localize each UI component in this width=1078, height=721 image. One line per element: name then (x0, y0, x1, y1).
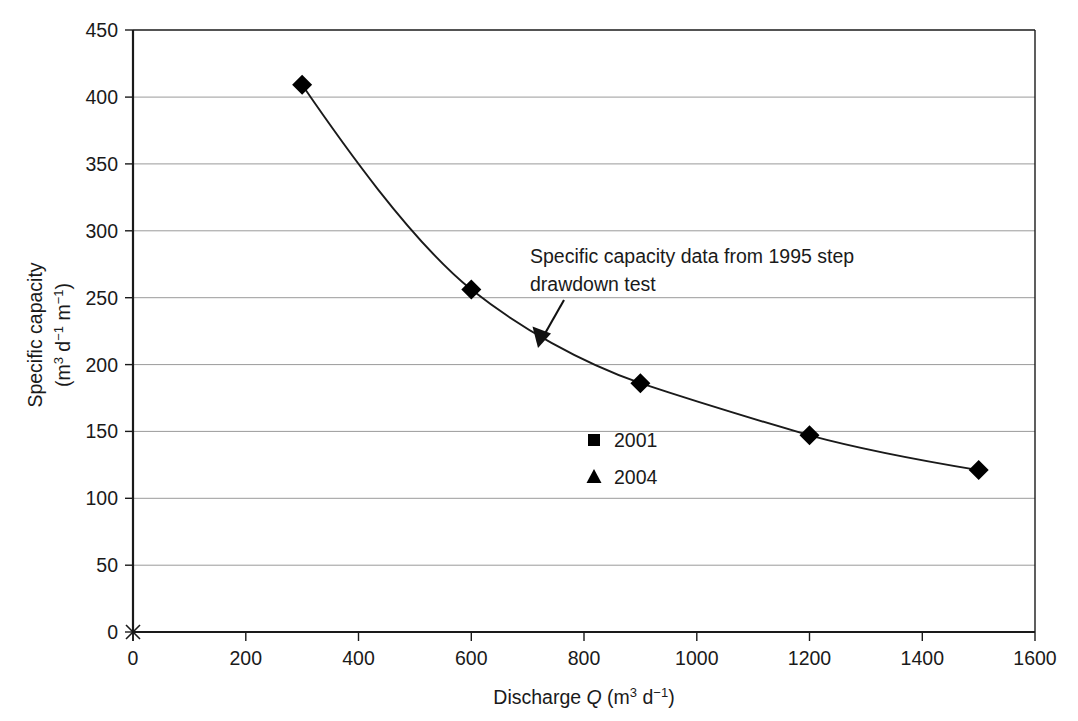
x-unit-sup-2: −1 (653, 685, 668, 700)
x-axis-title: Discharge Q (m3 d−1) (493, 685, 674, 709)
y-unit-mid-2: m (52, 304, 74, 326)
annotation-line-1: Specific capacity data from 1995 step (530, 245, 854, 267)
y-tick-label: 450 (85, 19, 118, 41)
x-tick-label: 1200 (788, 647, 832, 669)
x-tick-label: 1600 (1013, 647, 1057, 669)
chart-background (0, 0, 1078, 721)
y-tick-label: 100 (85, 487, 118, 509)
legend-label-2001: 2001 (614, 429, 657, 451)
y-axis-title-line-1: Specific capacity (24, 262, 46, 407)
y-unit-sup-2: −1 (51, 326, 66, 341)
y-unit-open: (m (52, 364, 74, 387)
x-tick-label: 600 (455, 647, 488, 669)
y-tick-label: 50 (96, 554, 118, 576)
chart-svg: 450 400 350 300 250 200 150 100 50 0 0 2… (0, 0, 1078, 721)
y-unit-sup-1: 3 (51, 357, 66, 364)
y-tick-label: 300 (85, 220, 118, 242)
legend-marker-square-icon (588, 434, 600, 446)
y-tick-label: 400 (85, 86, 118, 108)
y-tick-label: 350 (85, 153, 118, 175)
y-unit-sup-3: −1 (51, 289, 66, 304)
y-tick-label: 200 (85, 354, 118, 376)
x-tick-label: 400 (342, 647, 375, 669)
x-title-main: Discharge (493, 686, 586, 708)
chart-figure: 450 400 350 300 250 200 150 100 50 0 0 2… (0, 0, 1078, 721)
x-tick-label: 0 (128, 647, 139, 669)
x-tick-label: 1000 (675, 647, 719, 669)
y-tick-label: 150 (85, 420, 118, 442)
y-unit-close: ) (52, 283, 74, 290)
x-title-symbol: Q (587, 686, 602, 708)
y-unit-mid: d (52, 341, 74, 357)
x-unit-sup-1: 3 (630, 685, 637, 700)
x-tick-label: 1400 (901, 647, 945, 669)
x-unit-mid: d (637, 686, 653, 708)
y-tick-label: 0 (107, 621, 118, 643)
annotation-line-2: drawdown test (530, 273, 656, 295)
legend-label-2004: 2004 (614, 466, 658, 488)
x-unit-close: ) (668, 686, 675, 708)
x-tick-label: 200 (230, 647, 263, 669)
x-tick-label: 800 (568, 647, 601, 669)
y-tick-label: 250 (85, 287, 118, 309)
x-unit-open: (m (602, 686, 630, 708)
